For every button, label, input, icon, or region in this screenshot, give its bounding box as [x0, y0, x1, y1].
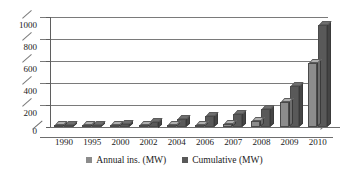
bar-chart: 1000 800 600 400 200 0 1990199520 [0, 0, 349, 179]
bar-2007-s1 [223, 124, 232, 127]
bar-face [139, 125, 148, 127]
y-axis-tick-label: 1000 [3, 21, 37, 30]
bar-face [54, 125, 63, 127]
bar-group [110, 8, 138, 138]
legend-swatch-icon [86, 157, 92, 163]
bar-1990-s2 [64, 125, 73, 127]
chart-legend: Annual ins. (MW) Cumulative (MW) [0, 153, 349, 167]
legend-label: Cumulative (MW) [192, 155, 262, 165]
bar-face [251, 121, 260, 127]
floor-back-edge [50, 127, 340, 128]
x-axis-tick-label: 2000 [105, 137, 135, 148]
bar-group [308, 8, 336, 138]
bar-2004-s1 [167, 125, 176, 127]
x-axis-labels: 1990199520002002200420062007200820092010 [40, 137, 340, 150]
x-axis-tick-label: 2006 [190, 137, 220, 148]
bar-2002-s1 [139, 125, 148, 127]
bars-layer [40, 8, 340, 138]
bar-face [223, 124, 232, 127]
legend-item-cumulative: Cumulative (MW) [182, 155, 262, 165]
bar-group [223, 8, 251, 138]
bar-face [280, 102, 289, 127]
bar-2008-s1 [251, 121, 260, 127]
bar-group [251, 8, 279, 138]
y-axis-labels: 1000 800 600 400 200 0 [0, 8, 37, 136]
bar-2009-s1 [280, 102, 289, 127]
bar-face [167, 125, 176, 127]
x-axis-tick-label: 2007 [218, 137, 248, 148]
bar-face [82, 125, 91, 127]
legend-label: Annual ins. (MW) [96, 155, 166, 165]
bar-face [92, 125, 101, 127]
x-axis-tick-label: 1990 [49, 137, 79, 148]
legend-item-annual: Annual ins. (MW) [86, 155, 166, 165]
bar-group [54, 8, 82, 138]
x-axis-tick-label: 1995 [77, 137, 107, 148]
bar-face [308, 63, 317, 127]
y-axis-tick-label: 600 [3, 65, 37, 74]
y-axis-tick-label: 200 [3, 109, 37, 118]
legend-swatch-icon [182, 157, 188, 163]
bar-face [110, 125, 119, 127]
y-axis-tick-label: 400 [3, 87, 37, 96]
x-axis-tick-label: 2010 [303, 137, 333, 148]
plot-area [40, 8, 340, 136]
bar-2000-s1 [110, 125, 119, 127]
bar-group [82, 8, 110, 138]
bar-group [139, 8, 167, 138]
bar-1995-s2 [92, 125, 101, 127]
bar-1995-s1 [82, 125, 91, 127]
bar-face [195, 125, 204, 127]
bar-2006-s1 [195, 125, 204, 127]
bar-group [280, 8, 308, 138]
bar-side [327, 21, 331, 127]
bar-group [167, 8, 195, 138]
x-axis-tick-label: 2004 [162, 137, 192, 148]
bar-side [299, 83, 303, 127]
bar-side [317, 60, 321, 127]
bar-1990-s1 [54, 125, 63, 127]
x-axis-tick-label: 2008 [246, 137, 276, 148]
x-axis-tick-label: 2009 [275, 137, 305, 148]
y-axis-tick-label: 800 [3, 43, 37, 52]
bar-face [64, 125, 73, 127]
x-axis-tick-label: 2002 [134, 137, 164, 148]
bar-2010-s1 [308, 63, 317, 127]
bar-side [289, 99, 293, 127]
bar-group [195, 8, 223, 138]
